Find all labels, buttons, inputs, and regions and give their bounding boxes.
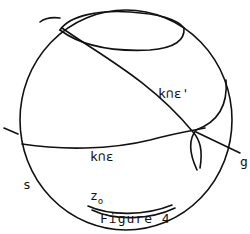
- label-z0: zo: [90, 189, 103, 206]
- right-arc: [191, 80, 226, 170]
- lower-intersection-curve: [22, 128, 205, 148]
- sphere-outline: [20, 10, 232, 230]
- line-g-right-segment: [196, 132, 240, 153]
- figure-caption: Figure 4: [100, 211, 171, 226]
- label-s: s: [23, 178, 31, 191]
- label-z: z: [90, 188, 98, 203]
- label-z-subscript: o: [98, 196, 103, 206]
- label-g: g: [240, 155, 248, 168]
- sphere-diagram: [0, 0, 250, 234]
- line-g-left-segment: [4, 128, 18, 134]
- label-k-cap-epsilon: k∩ε: [90, 150, 113, 163]
- label-k-cap-epsilon-prime: k∩ε': [158, 87, 189, 100]
- upper-cap-link: [40, 18, 60, 22]
